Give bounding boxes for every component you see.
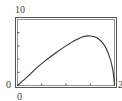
data-curve xyxy=(18,36,115,86)
plot-area xyxy=(0,0,122,101)
frame xyxy=(16,18,117,88)
axis-ticks xyxy=(18,33,91,86)
